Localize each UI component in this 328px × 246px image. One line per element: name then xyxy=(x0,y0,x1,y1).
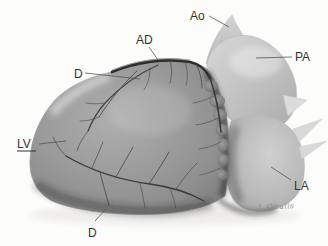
heart-illustration-canvas: Ao AD D PA LV LA D J. Círulis xyxy=(0,0,328,246)
label-diagonal-lower: D xyxy=(88,226,97,240)
heart-anatomy-figure: Ao AD D PA LV LA D J. Círulis xyxy=(0,0,328,246)
label-left-atrium: LA xyxy=(294,179,309,193)
label-pulmonary-artery: PA xyxy=(295,50,310,64)
label-aorta: Ao xyxy=(190,9,205,23)
label-diagonal-upper: D xyxy=(74,67,83,81)
label-anterior-descending: AD xyxy=(136,33,153,47)
label-left-ventricle: LV xyxy=(17,137,31,151)
